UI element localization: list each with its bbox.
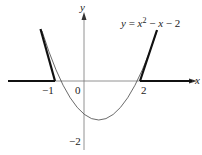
- tick-label-2: 2: [141, 84, 147, 96]
- eq-equals: =: [126, 17, 138, 29]
- x-axis-label: x: [194, 74, 200, 86]
- y-axis-arrow-icon: [82, 12, 87, 20]
- origin-label: 0: [75, 84, 81, 96]
- thick-branch-left: [41, 29, 56, 81]
- tick-label-neg1: −1: [42, 84, 54, 96]
- parabola-curve: [42, 31, 157, 120]
- parabola-graph: y x 0 −1 2 −2 y = x2 − x − 2: [0, 0, 202, 155]
- tick-label-neg2: −2: [69, 135, 81, 147]
- eq-minus-two: − 2: [163, 17, 180, 29]
- equation-label: y = x2 − x − 2: [120, 16, 180, 29]
- eq-minus: −: [147, 17, 159, 29]
- y-axis-label: y: [79, 1, 85, 13]
- thick-branch-right: [140, 30, 157, 81]
